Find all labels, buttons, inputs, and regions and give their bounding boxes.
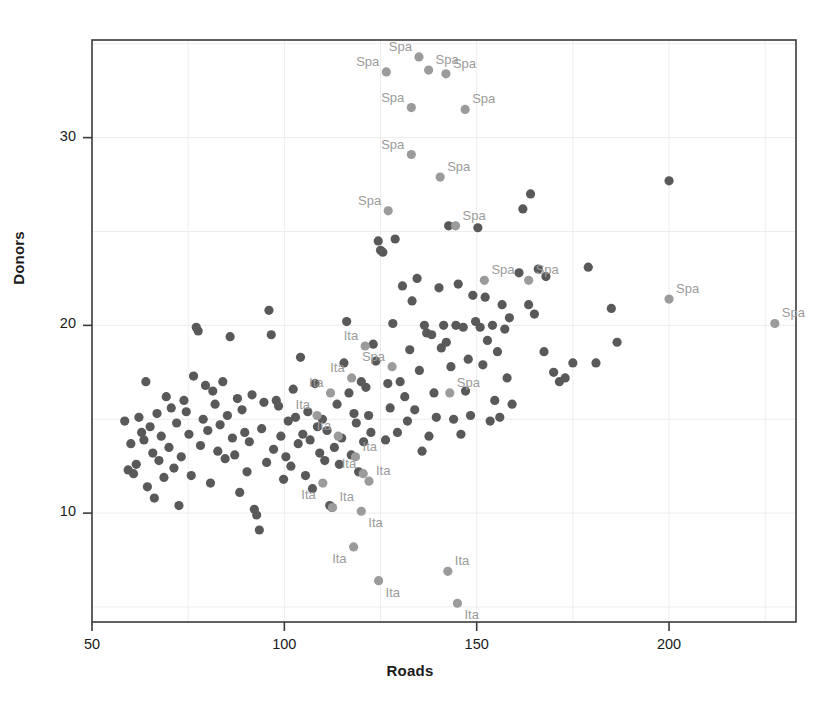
data-point: [456, 430, 465, 439]
data-point: [490, 396, 499, 405]
point-label: Ita: [368, 515, 383, 530]
data-point: [357, 507, 366, 516]
data-point: [449, 415, 458, 424]
data-point: [286, 462, 295, 471]
x-axis-title: Roads: [0, 662, 820, 679]
data-point: [182, 407, 191, 416]
point-label: Ita: [301, 487, 316, 502]
data-point: [199, 415, 208, 424]
data-point: [148, 448, 157, 457]
data-point: [382, 67, 391, 76]
data-point: [381, 435, 390, 444]
data-point: [441, 69, 450, 78]
data-point: [216, 420, 225, 429]
data-point: [237, 405, 246, 414]
data-point: [495, 413, 504, 422]
data-point: [383, 379, 392, 388]
data-point: [359, 469, 368, 478]
point-label: Spa: [676, 281, 700, 296]
data-point: [526, 189, 535, 198]
data-point: [235, 488, 244, 497]
data-point: [349, 409, 358, 418]
data-point: [361, 383, 370, 392]
data-point: [518, 204, 527, 213]
data-point: [352, 418, 361, 427]
point-label: Ita: [317, 418, 332, 433]
y-tick-label: 10: [34, 503, 76, 519]
point-label: Ita: [363, 439, 378, 454]
data-point: [378, 248, 387, 257]
data-point: [213, 447, 222, 456]
point-label: Spa: [453, 56, 477, 71]
data-point: [393, 428, 402, 437]
data-point: [177, 452, 186, 461]
data-point: [228, 433, 237, 442]
data-point: [459, 323, 468, 332]
data-point: [384, 206, 393, 215]
point-labels-layer: SpaSpaSpaSpaSpaSpaSpaSpaSpaSpaSpaSpaSpaS…: [296, 39, 806, 622]
data-point: [530, 310, 539, 319]
data-point: [427, 330, 436, 339]
point-label: Spa: [356, 54, 380, 69]
data-point: [169, 463, 178, 472]
data-point: [189, 371, 198, 380]
data-point: [664, 176, 673, 185]
tick-marks: [83, 138, 669, 631]
point-label: Spa: [447, 159, 471, 174]
point-label: Spa: [782, 305, 806, 320]
data-point: [255, 525, 264, 534]
data-point: [454, 279, 463, 288]
data-point: [417, 447, 426, 456]
data-point: [245, 437, 254, 446]
x-tick-label: 200: [649, 636, 689, 652]
data-point: [410, 405, 419, 414]
data-point: [561, 373, 570, 382]
data-point: [481, 293, 490, 302]
data-point: [466, 411, 475, 420]
data-point: [412, 274, 421, 283]
point-label: Ita: [342, 456, 357, 471]
data-point: [591, 358, 600, 367]
point-label: Spa: [472, 91, 496, 106]
data-point: [233, 394, 242, 403]
plot-canvas: SpaSpaSpaSpaSpaSpaSpaSpaSpaSpaSpaSpaSpaS…: [0, 0, 820, 701]
x-tick-label: 100: [264, 636, 304, 652]
data-point: [568, 358, 577, 367]
point-label: Spa: [389, 39, 413, 54]
data-point: [483, 336, 492, 345]
data-point: [414, 52, 423, 61]
data-point: [267, 330, 276, 339]
data-point: [374, 576, 383, 585]
data-point: [208, 386, 217, 395]
point-label: Ita: [464, 607, 479, 622]
data-point: [445, 388, 454, 397]
data-point: [502, 373, 511, 382]
data-point: [276, 432, 285, 441]
data-point: [493, 347, 502, 356]
data-point: [387, 362, 396, 371]
point-label: Spa: [381, 137, 405, 152]
data-point: [328, 503, 337, 512]
data-point: [500, 325, 509, 334]
point-label: Spa: [536, 262, 560, 277]
data-point: [464, 355, 473, 364]
data-point: [201, 381, 210, 390]
data-point: [391, 234, 400, 243]
data-point: [607, 304, 616, 313]
y-axis-title: Donors: [10, 198, 27, 318]
data-point: [476, 323, 485, 332]
data-point: [770, 319, 779, 328]
data-point: [349, 542, 358, 551]
data-point: [291, 413, 300, 422]
data-point: [539, 347, 548, 356]
data-point: [120, 417, 129, 426]
data-point: [524, 300, 533, 309]
data-point: [247, 390, 256, 399]
data-point: [203, 426, 212, 435]
data-point: [150, 493, 159, 502]
point-label: Ita: [376, 463, 391, 478]
data-point: [174, 501, 183, 510]
data-point: [145, 422, 154, 431]
data-point: [184, 430, 193, 439]
point-label: Spa: [491, 262, 515, 277]
